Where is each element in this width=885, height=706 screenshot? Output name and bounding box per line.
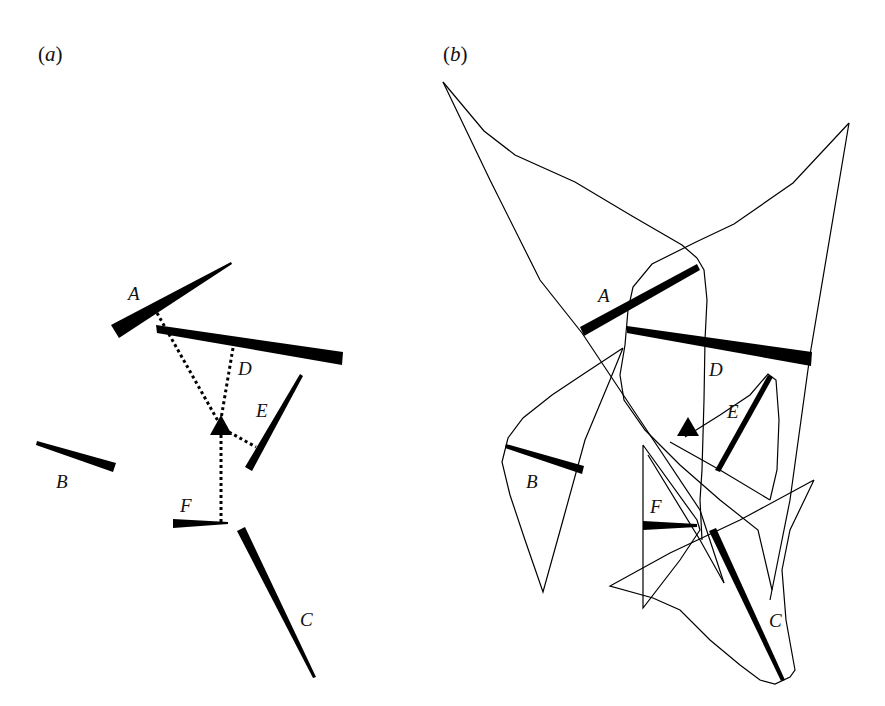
- label-f: F: [179, 495, 192, 516]
- label-e: E: [726, 401, 739, 422]
- label-b: B: [526, 471, 538, 492]
- outline-a-top: [443, 82, 697, 258]
- agent-triangle-icon: [677, 417, 699, 436]
- label-a: A: [126, 283, 140, 304]
- wall-segment-b: [505, 444, 584, 474]
- wall-segment-b: [36, 441, 116, 472]
- outline-polygons: [443, 82, 849, 684]
- sight-line-d: [221, 348, 233, 419]
- label-d: D: [708, 359, 723, 380]
- wall-segment-e: [715, 375, 773, 472]
- label-b: B: [56, 471, 68, 492]
- wall-segment-c: [709, 528, 785, 681]
- label-e: E: [255, 400, 268, 421]
- outline-d-mid: [697, 258, 707, 540]
- panel-b: (b): [443, 42, 849, 684]
- outline-d-left: [620, 123, 849, 590]
- agent-triangle-icon: [210, 415, 232, 435]
- panel-a-label: (a): [38, 42, 63, 66]
- wall-segment-e: [245, 374, 303, 471]
- sight-line-e: [229, 432, 256, 447]
- panel-a: (a) A B C D E F: [36, 42, 343, 678]
- label-c: C: [769, 610, 782, 631]
- figure: (a) A B C D E F (b): [0, 0, 885, 706]
- label-f: F: [649, 496, 662, 517]
- label-a: A: [596, 285, 610, 306]
- outline-f-inner: [648, 455, 724, 583]
- panel-b-label: (b): [443, 42, 468, 66]
- wall-segment-c: [237, 527, 316, 678]
- label-c: C: [300, 609, 313, 630]
- outline-b: [502, 348, 623, 592]
- label-d: D: [237, 358, 252, 379]
- outline-c: [610, 480, 814, 684]
